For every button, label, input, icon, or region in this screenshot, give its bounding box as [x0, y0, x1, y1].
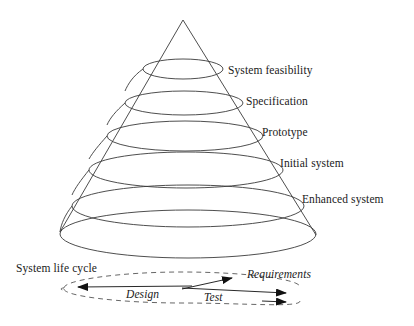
- cone-outline: [60, 20, 316, 258]
- test-arrow-line: [182, 288, 286, 293]
- stage-label-specification: Specification: [246, 95, 308, 108]
- stage-label-system-feasibility: System feasibility: [228, 64, 313, 77]
- spiral-coil-3: [107, 121, 263, 151]
- requirements-arrow-line: [182, 278, 232, 289]
- spiral-connector-1: [125, 69, 143, 91]
- life-cycle-loop-bottom: [64, 289, 300, 305]
- cone-base-ellipse: [60, 210, 316, 258]
- spiral-coil-2: [125, 91, 243, 115]
- outer-loop-arrow-line: [262, 301, 286, 302]
- spiral-connector-4: [72, 170, 89, 195]
- spiral-coil-5: [72, 185, 304, 227]
- stage-label-initial-system: Initial system: [280, 157, 344, 170]
- design-label: Design: [126, 288, 159, 301]
- spiral-life-cycle-diagram: System feasibility Specification Prototy…: [0, 0, 414, 326]
- test-label: Test: [204, 291, 223, 304]
- life-cycle-arrows: [78, 278, 286, 302]
- requirements-label: Requirements: [247, 268, 311, 281]
- cone-left-edge: [60, 20, 183, 232]
- spiral-connector-2: [107, 103, 125, 125]
- stage-label-prototype: Prototype: [262, 126, 308, 139]
- cone-spiral-graphic: [0, 0, 414, 326]
- spiral-coils: [60, 59, 304, 232]
- spiral-coil-4: [89, 152, 283, 188]
- system-life-cycle-label: System life cycle: [16, 262, 97, 275]
- design-arrow-line: [78, 286, 192, 287]
- stage-label-enhanced-system: Enhanced system: [302, 193, 384, 206]
- life-cycle-loop-left-cap: [61, 288, 64, 290]
